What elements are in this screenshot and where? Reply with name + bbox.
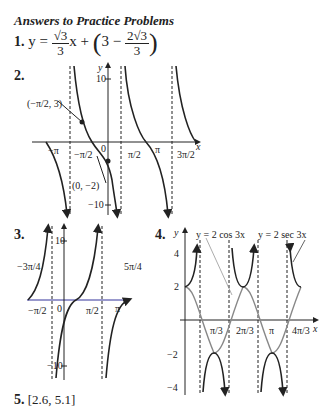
svg-text:π: π [115, 303, 120, 314]
svg-text:2: 2 [174, 281, 179, 292]
svg-text:(−π/2, 3): (−π/2, 3) [27, 98, 62, 110]
svg-text:−2: −2 [167, 349, 178, 360]
svg-text:0: 0 [101, 143, 106, 154]
svg-text:y = 2 sec 3x: y = 2 sec 3x [258, 229, 306, 240]
svg-text:−π: −π [48, 145, 59, 156]
svg-text:−π/2: −π/2 [28, 305, 46, 316]
svg-text:10: 10 [55, 235, 65, 246]
svg-text:5π/4: 5π/4 [124, 261, 142, 272]
svg-text:−10: −10 [47, 360, 63, 371]
svg-text:10: 10 [96, 73, 106, 84]
svg-text:y: y [97, 62, 103, 73]
svg-text:0: 0 [57, 303, 62, 314]
svg-text:3π/2: 3π/2 [177, 149, 195, 160]
svg-text:4: 4 [174, 248, 179, 259]
svg-text:(0, −2): (0, −2) [72, 180, 99, 192]
svg-text:π: π [155, 144, 160, 155]
svg-text:y: y [173, 227, 179, 238]
svg-text:−3π/4: −3π/4 [17, 261, 40, 272]
svg-text:−10: −10 [88, 199, 104, 210]
svg-text:4π/3: 4π/3 [292, 325, 310, 336]
svg-text:x: x [195, 141, 201, 152]
svg-text:π/2: π/2 [128, 149, 141, 160]
svg-text:2π/3: 2π/3 [236, 325, 254, 336]
graph-4 [180, 230, 316, 395]
svg-text:π/2: π/2 [86, 305, 99, 316]
svg-text:x: x [312, 323, 318, 334]
svg-text:π: π [269, 325, 274, 336]
graph-2 [32, 65, 198, 216]
svg-text:y = 2 cos 3x: y = 2 cos 3x [196, 229, 245, 240]
svg-text:−4: −4 [167, 382, 178, 393]
svg-text:−π/2: −π/2 [74, 149, 92, 160]
svg-text:π/3: π/3 [210, 325, 223, 336]
graphs: yx 10−10 (−π/2, 3)(0, −2) −π−π/20 π/2π3π… [0, 0, 322, 419]
